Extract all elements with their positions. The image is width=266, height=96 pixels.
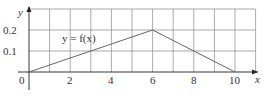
curve-label: y = f(x) xyxy=(62,33,96,44)
chart: 0.2 0.1 0 2 4 6 8 10 x y y = f(x) xyxy=(0,0,266,96)
x-tick-label: 2 xyxy=(67,75,73,86)
plot-area xyxy=(0,0,266,96)
x-tick-label: 6 xyxy=(150,75,156,86)
origin-label: 0 xyxy=(19,75,25,86)
x-tick-label: 4 xyxy=(108,75,114,86)
x-axis-label: x xyxy=(255,74,260,85)
y-tick-label: 0.2 xyxy=(3,25,17,36)
y-tick-label: 0.1 xyxy=(3,46,17,57)
x-tick-label: 8 xyxy=(191,75,197,86)
y-axis-label: y xyxy=(18,7,23,18)
x-tick-label: 10 xyxy=(229,75,240,86)
